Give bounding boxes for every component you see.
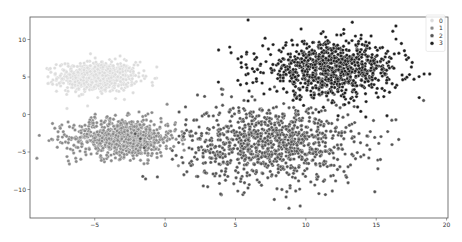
data-point [266, 112, 269, 115]
data-point [266, 135, 269, 138]
data-point [347, 80, 350, 83]
data-point [355, 84, 358, 87]
data-point [380, 68, 383, 71]
data-point [127, 151, 130, 154]
data-point [387, 60, 390, 63]
x-tick-label: −5 [90, 221, 99, 228]
legend-marker [430, 41, 434, 45]
data-point [209, 161, 212, 164]
data-point [310, 49, 313, 52]
data-point [80, 131, 83, 134]
data-point [299, 27, 302, 30]
data-point [267, 109, 270, 112]
data-point [89, 52, 92, 55]
data-point [353, 105, 356, 108]
data-point [303, 135, 306, 138]
data-point [83, 88, 86, 91]
data-point [100, 159, 103, 162]
data-point [278, 123, 281, 126]
data-point [336, 44, 339, 47]
data-point [349, 75, 352, 78]
data-point [377, 142, 380, 145]
data-point [208, 139, 211, 142]
data-point [303, 153, 306, 156]
data-point [117, 90, 120, 93]
data-point [385, 69, 388, 72]
data-point [107, 128, 110, 131]
data-point [261, 172, 264, 175]
data-point [135, 80, 138, 83]
data-point [327, 122, 330, 125]
data-point [297, 132, 300, 135]
data-point [132, 63, 135, 66]
data-point [360, 84, 363, 87]
data-point [338, 165, 341, 168]
data-point [328, 66, 331, 69]
data-point [122, 63, 125, 66]
data-point [125, 59, 128, 62]
data-point [232, 107, 235, 110]
data-point [275, 90, 278, 93]
data-point [165, 139, 168, 142]
data-point [225, 136, 228, 139]
data-point [267, 164, 270, 167]
data-point [280, 188, 283, 191]
data-point [267, 47, 270, 50]
data-point [355, 95, 358, 98]
data-point [313, 63, 316, 66]
data-point [224, 155, 227, 158]
data-point [354, 157, 357, 160]
data-point [185, 170, 188, 173]
data-point [318, 62, 321, 65]
data-point [94, 147, 97, 150]
data-point [67, 138, 70, 141]
data-point [277, 167, 280, 170]
data-point [49, 67, 52, 70]
data-point [351, 21, 354, 24]
data-point [98, 71, 101, 74]
data-point [62, 81, 65, 84]
data-point [139, 137, 142, 140]
data-point [237, 109, 240, 112]
data-point [261, 108, 264, 111]
data-point [132, 139, 135, 142]
data-point [300, 49, 303, 52]
data-point [65, 147, 68, 150]
data-point [309, 128, 312, 131]
data-point [344, 59, 347, 62]
data-point [46, 82, 49, 85]
data-point [74, 157, 77, 160]
data-point [352, 53, 355, 56]
data-point [184, 123, 187, 126]
data-point [209, 147, 212, 150]
data-point [219, 150, 222, 153]
data-point [147, 159, 150, 162]
data-point [288, 129, 291, 132]
data-point [243, 158, 246, 161]
data-point [139, 159, 142, 162]
data-point [383, 72, 386, 75]
data-point [288, 184, 291, 187]
data-point [377, 79, 380, 82]
data-point [118, 71, 121, 74]
data-point [317, 192, 320, 195]
data-point [308, 120, 311, 123]
data-point [136, 63, 139, 66]
data-point [394, 37, 397, 40]
data-point [240, 66, 243, 69]
data-point [282, 158, 285, 161]
data-point [132, 70, 135, 73]
data-point [171, 149, 174, 152]
data-point [95, 130, 98, 133]
data-point [245, 116, 248, 119]
data-point [160, 154, 163, 157]
data-point [276, 133, 279, 136]
data-point [321, 91, 324, 94]
data-point [326, 39, 329, 42]
data-point [136, 144, 139, 147]
data-point [248, 183, 251, 186]
data-point [366, 58, 369, 61]
data-point [86, 60, 89, 63]
data-point [100, 86, 103, 89]
data-point [379, 71, 382, 74]
